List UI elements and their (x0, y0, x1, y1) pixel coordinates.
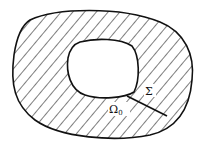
omega-symbol: Ω (109, 103, 118, 116)
domain-diagram: Σ Ω0 (0, 0, 201, 146)
sigma-label: Σ (145, 85, 153, 98)
omega-subscript: 0 (118, 109, 122, 117)
inner-hole (68, 39, 139, 97)
